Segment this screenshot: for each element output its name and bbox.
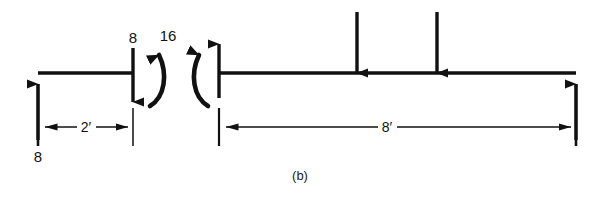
- right-free-body-segment: 8′: [194, 12, 576, 146]
- left-moment-curved-arrow: [150, 55, 164, 106]
- right-moment-curved-arrow: [194, 55, 208, 106]
- left-dimension-label: 2′: [81, 119, 92, 135]
- free-body-diagram-figure: 8 16 8 2′ 8′ (b): [0, 0, 600, 201]
- left-shear-label: 8: [129, 29, 137, 46]
- left-reaction-label: 8: [34, 148, 42, 165]
- right-dimension-label: 8′: [382, 119, 393, 135]
- figure-caption: (b): [292, 168, 308, 183]
- left-moment-label: 16: [160, 27, 177, 44]
- left-free-body-segment: 8 16 8 2′: [34, 27, 177, 165]
